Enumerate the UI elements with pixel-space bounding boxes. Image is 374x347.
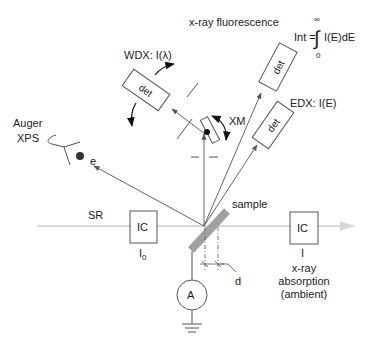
svg-text:∞: ∞ [314, 15, 320, 24]
wdx-detector: det [122, 69, 170, 111]
svg-text:∫: ∫ [313, 27, 321, 50]
electron-dot [76, 152, 84, 160]
xps-label: XPS [17, 132, 39, 144]
sample-label: sample [232, 198, 267, 210]
ic-right-label: IC [297, 222, 308, 234]
edx-label: EDX: I(E) [290, 97, 336, 109]
sample [191, 211, 227, 250]
d-label: d [235, 275, 241, 287]
sr-label: SR [88, 209, 103, 221]
absorption-line2: absorption [278, 275, 329, 287]
electron-analyzer [48, 135, 80, 165]
xm-label: XM [229, 115, 246, 127]
edx-detector: det [252, 101, 294, 149]
ammeter-label: A [187, 289, 195, 301]
absorption-line3: (ambient) [281, 288, 327, 300]
experiment-diagram: SR IC I0 IC I x-ray absorption (ambient)… [0, 0, 374, 347]
crystal-monochromator [177, 83, 220, 157]
svg-text:0: 0 [316, 51, 321, 60]
ic-left-label: IC [137, 221, 148, 233]
svg-text:I(E)dE: I(E)dE [324, 31, 355, 43]
wdx-label: WDX: I(λ) [124, 49, 172, 61]
i0-label: I0 [139, 247, 147, 262]
fluorescence-title: x-ray fluorescence [189, 16, 279, 28]
absorption-line1: x-ray [292, 262, 317, 274]
integral-formula: Int = ∫ I(E)dE ∞ 0 [294, 15, 355, 60]
svg-text:Int =: Int = [294, 31, 316, 43]
auger-label: Auger [13, 117, 43, 129]
fluorescence-detector: det [259, 43, 297, 91]
i-label: I [301, 247, 304, 259]
electron-label: e [90, 155, 96, 167]
thickness-markers [200, 227, 236, 272]
